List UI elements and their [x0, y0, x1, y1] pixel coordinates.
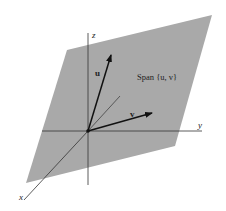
x-axis-label: x	[18, 192, 23, 202]
vector-v-label: v	[130, 109, 135, 119]
origin-point	[86, 129, 90, 133]
y-axis-label: y	[197, 120, 202, 130]
span-diagram: z y x u v Span {u, v}	[0, 0, 226, 211]
plane-label: Span {u, v}	[137, 72, 177, 82]
plane	[26, 15, 212, 183]
vector-u-label: u	[95, 68, 100, 78]
z-axis-label: z	[91, 30, 96, 40]
